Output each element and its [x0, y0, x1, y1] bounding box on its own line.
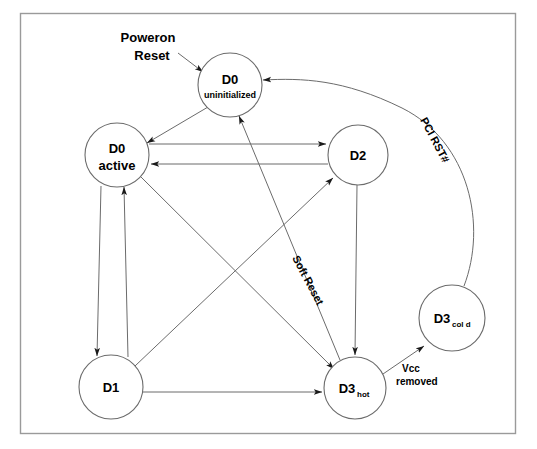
label-vcc-removed-line1: Vcc — [402, 363, 420, 374]
node-d1[interactable]: D1 — [79, 355, 143, 419]
node-d0-active-line1: D0 — [109, 141, 126, 156]
node-d0-uninitialized-line2: uninitialized — [204, 90, 256, 100]
node-d3-hot[interactable]: D3 hot — [324, 357, 386, 419]
node-d0-active[interactable]: D0 active — [85, 123, 149, 187]
label-vcc-removed-line2: removed — [396, 376, 438, 387]
node-d1-label: D1 — [103, 380, 120, 395]
state-diagram: D0 uninitialized D0 active D2 D3 col d D… — [0, 0, 537, 449]
node-d3-hot-label: D3 — [339, 381, 356, 396]
node-d3-hot-subscript: hot — [357, 390, 370, 399]
node-d3-cold-label: D3 — [434, 311, 451, 326]
node-d2[interactable]: D2 — [328, 125, 388, 185]
node-d0-uninitialized[interactable]: D0 uninitialized — [198, 53, 262, 117]
node-d0-active-line2: active — [99, 158, 136, 173]
node-d2-label: D2 — [350, 148, 367, 163]
node-d0-uninitialized-line1: D0 — [222, 72, 239, 87]
label-poweron-reset-line1: Poweron — [121, 30, 176, 45]
node-d3-cold[interactable]: D3 col d — [419, 285, 485, 351]
label-poweron-reset-line2: Reset — [134, 48, 170, 63]
node-d3-cold-subscript: col d — [452, 320, 471, 329]
